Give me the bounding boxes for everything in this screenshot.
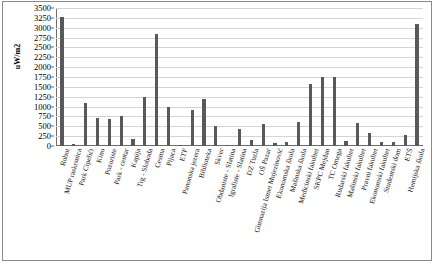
y-tick-label: 2250: [34, 53, 51, 62]
bar: [120, 116, 123, 146]
x-tick-label: Studentski dom: [387, 147, 399, 262]
x-tick-label: Igraliste - Slatina: [234, 147, 246, 262]
bar: [404, 135, 407, 146]
y-tick-mark: [51, 136, 54, 137]
gridline: [56, 67, 423, 68]
x-tick-label: Pozoriste: [103, 147, 115, 262]
x-tick-label: Park Cipelići: [80, 147, 92, 262]
y-tick-label: 2000: [34, 63, 51, 72]
bar: [321, 77, 324, 146]
gridline: [56, 77, 423, 78]
x-tick-label: Gimnazija Ismet Mujezinović: [269, 147, 281, 262]
x-axis-tick-labels: RobotMUP raskrsnicaPark CipelićiKinoPozo…: [56, 147, 423, 262]
x-tick-label: Trg - Sloboda: [139, 147, 151, 262]
y-tick-mark: [51, 86, 54, 87]
y-tick-mark: [51, 106, 54, 107]
bar: [202, 99, 205, 146]
x-tick-label: Hemijska škola: [411, 147, 423, 262]
bar: [273, 143, 276, 146]
bar: [262, 124, 265, 146]
bar: [72, 144, 75, 146]
x-tick-label: Panonska jezera: [186, 147, 198, 262]
plot-area: [56, 8, 423, 146]
x-tick-label: MUP raskrsnica: [68, 147, 80, 262]
bar: [380, 142, 383, 146]
x-tick-label: Pijaca: [163, 147, 175, 262]
bar: [131, 139, 134, 146]
bar-chart: uW/m2 3500325030002750250022502000175015…: [0, 0, 435, 264]
y-axis-tick-labels: 3500325030002750250022502000175015001250…: [0, 0, 54, 154]
bar: [250, 140, 253, 146]
x-tick-label: Obdaniste - Slatina: [222, 147, 234, 262]
bar: [143, 97, 146, 146]
gridline: [56, 18, 423, 19]
x-tick-label: Park - centar: [115, 147, 127, 262]
x-tick-label: Mašinski fakultet: [352, 147, 364, 262]
bar: [179, 145, 182, 146]
x-tick-label: Ekonomska škola: [281, 147, 293, 262]
bar: [415, 24, 418, 146]
bar: [333, 77, 336, 146]
y-tick-label: 3500: [34, 4, 51, 13]
x-tick-label: Skver: [210, 147, 222, 262]
gridline: [56, 116, 423, 117]
y-tick-mark: [51, 146, 54, 147]
y-tick-label: 1250: [34, 92, 51, 101]
y-tick-label: 2500: [34, 43, 51, 52]
bar: [392, 142, 395, 146]
y-tick-label: 2750: [34, 33, 51, 42]
gridline: [56, 97, 423, 98]
y-tick-mark: [51, 8, 54, 9]
bar: [96, 118, 99, 146]
x-tick-label: ETF: [174, 147, 186, 262]
x-tick-label: Kino: [92, 147, 104, 262]
y-tick-mark: [51, 77, 54, 78]
x-tick-label: Robot: [56, 147, 68, 262]
bar: [297, 122, 300, 146]
gridline: [56, 87, 423, 88]
bar: [84, 103, 87, 146]
y-tick-mark: [51, 37, 54, 38]
y-tick-label: 3000: [34, 23, 51, 32]
gridline: [56, 38, 423, 39]
y-tick-mark: [51, 47, 54, 48]
y-tick-mark: [51, 126, 54, 127]
x-tick-label: Kapija: [127, 147, 139, 262]
bar: [368, 133, 371, 146]
bar: [108, 119, 111, 146]
y-tick-mark: [51, 57, 54, 58]
bar: [309, 84, 312, 146]
bar: [191, 110, 194, 146]
x-tick-label: Cesma: [151, 147, 163, 262]
bar: [226, 145, 229, 146]
x-tick-label: DZ Tuzla: [245, 147, 257, 262]
bar: [167, 107, 170, 146]
y-tick-mark: [51, 116, 54, 117]
bar: [344, 141, 347, 146]
x-tick-label: SKPC Mejdan: [316, 147, 328, 262]
plot-inner: [56, 8, 423, 146]
y-tick-label: 1750: [34, 73, 51, 82]
gridline: [56, 28, 423, 29]
y-tick-label: 750: [38, 112, 51, 121]
y-tick-label: 500: [38, 122, 51, 131]
bar: [214, 126, 217, 147]
bar: [155, 34, 158, 146]
gridline: [56, 47, 423, 48]
y-tick-label: 3250: [34, 13, 51, 22]
y-tick-mark: [51, 67, 54, 68]
gridline: [56, 8, 423, 9]
gridline: [56, 126, 423, 127]
x-tick-label: Biblioteka: [198, 147, 210, 262]
bar: [238, 129, 241, 146]
y-tick-mark: [51, 27, 54, 28]
bar: [356, 123, 359, 146]
x-tick-label: Mašinska škola: [293, 147, 305, 262]
y-tick-mark: [51, 17, 54, 18]
bar: [285, 142, 288, 146]
y-tick-label: 250: [38, 132, 51, 141]
x-tick-label: Medicinski fakultet: [305, 147, 317, 262]
gridline: [56, 107, 423, 108]
y-tick-mark: [51, 96, 54, 97]
x-tick-label: TC Omega: [328, 147, 340, 262]
